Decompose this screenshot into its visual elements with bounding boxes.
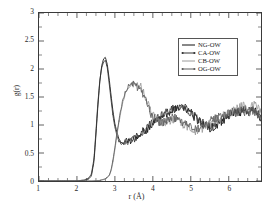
- x-tick-label: 1: [31, 185, 45, 193]
- legend-swatch-og-ow: [181, 65, 196, 73]
- legend-label-og-ow: OG-OW: [198, 65, 221, 73]
- x-tick-label: 2: [69, 185, 83, 193]
- x-tick-label: 5: [184, 185, 198, 193]
- legend-label-ng-ow: NG-OW: [198, 41, 221, 49]
- y-tick-label: 1: [12, 121, 34, 129]
- x-tick-label: 6: [222, 185, 236, 193]
- y-tick-label: 2: [12, 65, 34, 73]
- y-tick-label: 0.5: [12, 150, 34, 158]
- legend-item: NG-OW: [181, 41, 235, 49]
- series-markers-ca-ow: [82, 65, 261, 181]
- series-line-og-ow: [39, 81, 261, 181]
- legend-item: CB-OW: [181, 57, 235, 65]
- x-tick-label: 4: [146, 185, 160, 193]
- legend-item: CA-OW: [181, 49, 235, 57]
- legend-label-ca-ow: CA-OW: [198, 49, 220, 57]
- y-axis-label: g(r): [12, 71, 21, 111]
- legend-swatch-ng-ow: [181, 41, 196, 49]
- legend-item: OG-OW: [181, 65, 235, 73]
- legend-swatch-cb-ow: [181, 57, 196, 65]
- figure: g(r) NG-OW CA-OW CB-OW: [0, 0, 273, 209]
- series-line-ca-ow: [39, 60, 261, 181]
- legend-swatch-ca-ow: [181, 49, 196, 57]
- y-tick-label: 2.5: [12, 36, 34, 44]
- x-axis-label: r (Å): [0, 192, 273, 201]
- x-tick-label: 3: [108, 185, 122, 193]
- y-tick-label: 3: [12, 8, 34, 16]
- legend-label-cb-ow: CB-OW: [198, 57, 220, 65]
- legend: NG-OW CA-OW CB-OW OG-OW: [178, 38, 238, 76]
- y-tick-label: 1.5: [12, 93, 34, 101]
- series-line-cb-ow: [39, 82, 261, 181]
